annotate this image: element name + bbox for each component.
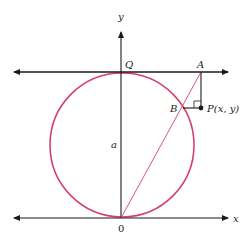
label-B: B: [169, 103, 177, 114]
label-a: a: [111, 139, 117, 150]
label-x-axis: x: [233, 213, 239, 224]
label-P: P(x, y): [206, 103, 239, 114]
label-origin: 0: [118, 223, 124, 234]
witch-of-agnesi-diagram: y x Q A B P(x, y) a 0: [0, 0, 250, 241]
label-y-axis: y: [117, 11, 124, 22]
label-Q: Q: [125, 59, 133, 70]
circle: [50, 73, 194, 217]
secant-line-OA: [121, 72, 201, 218]
label-A: A: [196, 59, 204, 70]
point-P: [199, 106, 204, 111]
